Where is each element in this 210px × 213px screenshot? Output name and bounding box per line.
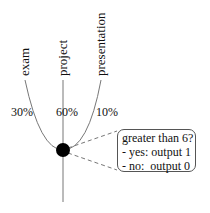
weight-label-presentation: 10% [96,106,118,118]
neuron-node [56,143,70,157]
weight-label-project: 60% [56,106,78,118]
callout-line-question: greater than 6? [122,131,195,145]
callout-connector-top [68,131,117,148]
callout-connector-bottom [68,153,117,170]
input-label-exam: exam [18,48,31,76]
weight-label-exam: 30% [11,106,33,118]
callout-line-no: - no: output 0 [122,159,195,173]
input-label-project: project [56,40,69,76]
input-label-presentation: presentation [94,12,107,76]
threshold-callout: greater than 6? - yes: output 1 - no: ou… [117,129,196,172]
callout-line-yes: - yes: output 1 [122,145,195,159]
